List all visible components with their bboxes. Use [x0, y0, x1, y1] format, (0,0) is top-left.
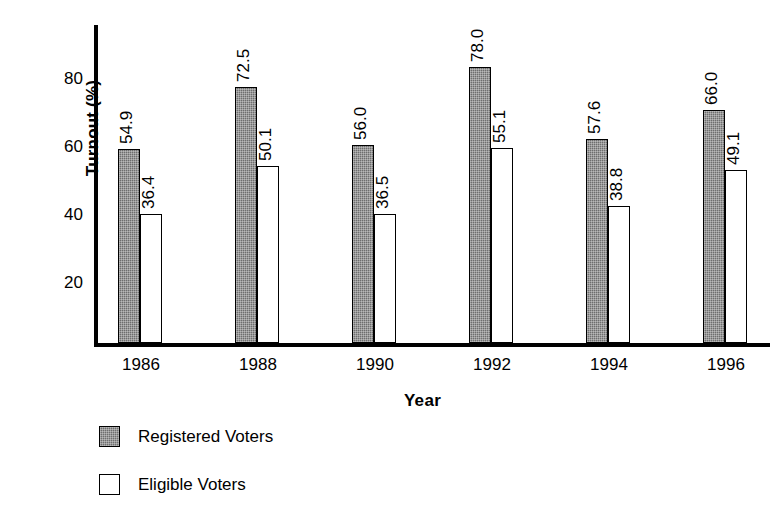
y-tick-40: 40 [43, 206, 83, 223]
bar-chart-figure: Turnout (%) 80 60 40 20 54.9 36.4 72.5 5… [0, 0, 773, 519]
legend-swatch-eligible [99, 474, 120, 495]
legend-swatch-registered [99, 426, 120, 447]
bar-registered-1994: 57.6 [586, 139, 608, 343]
bar-eligible-1986: 36.4 [140, 214, 162, 343]
x-tick-1990: 1990 [330, 356, 420, 373]
legend-label-eligible: Eligible Voters [138, 476, 246, 493]
bar-registered-1992: 78.0 [469, 67, 491, 343]
bar-value-eligible-1986: 36.4 [140, 176, 157, 209]
bar-eligible-1996: 49.1 [725, 170, 747, 343]
bar-value-registered-1986: 54.9 [118, 111, 135, 144]
y-tick-20: 20 [43, 274, 83, 291]
legend-item-registered-voters: Registered Voters [99, 424, 273, 448]
x-tick-1986: 1986 [96, 356, 186, 373]
bar-value-eligible-1994: 38.8 [608, 168, 625, 201]
bar-registered-1990: 56.0 [352, 145, 374, 343]
plot-area: 54.9 36.4 72.5 50.1 56.0 36.5 78.0 [98, 25, 770, 343]
bar-value-registered-1992: 78.0 [469, 29, 486, 62]
bar-value-registered-1990: 56.0 [352, 107, 369, 140]
bar-value-eligible-1990: 36.5 [374, 176, 391, 209]
bar-eligible-1994: 38.8 [608, 206, 630, 343]
x-tick-1996: 1996 [681, 356, 771, 373]
legend-label-registered: Registered Voters [138, 428, 273, 445]
bar-value-registered-1988: 72.5 [235, 49, 252, 82]
bar-value-eligible-1988: 50.1 [257, 128, 274, 161]
bar-value-eligible-1996: 49.1 [725, 131, 742, 164]
bar-eligible-1992: 55.1 [491, 148, 513, 343]
x-axis-line [94, 343, 770, 347]
x-tick-1988: 1988 [213, 356, 303, 373]
bar-registered-1996: 66.0 [703, 110, 725, 343]
bar-value-registered-1994: 57.6 [586, 101, 603, 134]
x-axis-title-text: Year [404, 391, 441, 411]
clipped-caption [0, 0, 773, 4]
x-axis-title: Year [0, 391, 773, 411]
bar-eligible-1990: 36.5 [374, 214, 396, 343]
bar-registered-1986: 54.9 [118, 149, 140, 343]
bar-eligible-1988: 50.1 [257, 166, 279, 343]
y-tick-80: 80 [43, 70, 83, 87]
legend-item-eligible-voters: Eligible Voters [99, 472, 273, 496]
bar-value-eligible-1992: 55.1 [491, 110, 508, 143]
chart-legend: Registered Voters Eligible Voters [99, 424, 273, 519]
bar-registered-1988: 72.5 [235, 87, 257, 343]
x-tick-1992: 1992 [447, 356, 537, 373]
y-axis-ticks: 80 60 40 20 [0, 0, 94, 347]
bar-value-registered-1996: 66.0 [703, 72, 720, 105]
x-tick-1994: 1994 [564, 356, 654, 373]
y-tick-60: 60 [43, 138, 83, 155]
